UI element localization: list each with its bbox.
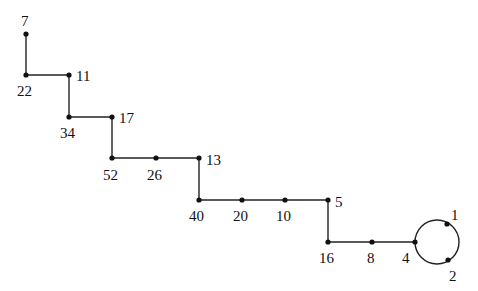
node-label-10: 10 xyxy=(276,208,291,224)
node-7 xyxy=(23,31,28,36)
node-label-52: 52 xyxy=(103,167,118,183)
node-label-8: 8 xyxy=(367,250,375,266)
node-16 xyxy=(325,239,330,244)
node-label-20: 20 xyxy=(233,208,248,224)
node-label-13: 13 xyxy=(206,152,221,168)
node-label-5: 5 xyxy=(335,194,343,210)
node-label-40: 40 xyxy=(189,208,204,224)
node-52 xyxy=(109,155,114,160)
node-label-17: 17 xyxy=(119,110,135,126)
node-20 xyxy=(239,197,244,202)
node-17 xyxy=(109,114,114,119)
edges-layer xyxy=(26,34,415,242)
node-label-4: 4 xyxy=(402,250,410,266)
node-label-34: 34 xyxy=(60,125,76,141)
node-label-2: 2 xyxy=(449,268,457,284)
node-13 xyxy=(196,155,201,160)
node-11 xyxy=(66,72,71,77)
cycle-layer xyxy=(415,220,459,264)
node-40 xyxy=(196,197,201,202)
node-1 xyxy=(444,221,449,226)
node-26 xyxy=(153,155,158,160)
node-2 xyxy=(445,257,450,262)
node-34 xyxy=(66,114,71,119)
node-label-7: 7 xyxy=(21,13,29,29)
node-8 xyxy=(369,239,374,244)
node-10 xyxy=(282,197,287,202)
node-5 xyxy=(325,197,330,202)
graph-diagram: 7221134175226134020105168412 xyxy=(0,0,478,291)
node-label-11: 11 xyxy=(76,68,90,84)
node-label-26: 26 xyxy=(147,167,163,183)
node-label-22: 22 xyxy=(17,83,32,99)
node-22 xyxy=(23,72,28,77)
nodes-layer xyxy=(23,31,450,262)
cycle-circle xyxy=(415,220,459,264)
node-label-16: 16 xyxy=(319,250,335,266)
node-label-1: 1 xyxy=(451,207,459,223)
node-4 xyxy=(412,239,417,244)
labels-layer: 7221134175226134020105168412 xyxy=(17,13,459,284)
